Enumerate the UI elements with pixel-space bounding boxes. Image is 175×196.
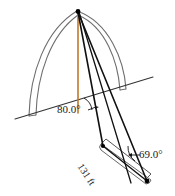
- near-point-marker: [101, 144, 105, 148]
- arch-diagram-figure: 80.0° 69.0° 131 ft: [0, 0, 175, 196]
- apex-marker: [76, 9, 81, 14]
- angle-label-69: 69.0°: [139, 149, 163, 160]
- far-point-marker: [145, 179, 150, 184]
- angle-label-80: 80.0°: [57, 104, 81, 115]
- arch-right-base-cap: [120, 89, 126, 90]
- arch-left-base-cap: [29, 115, 36, 116]
